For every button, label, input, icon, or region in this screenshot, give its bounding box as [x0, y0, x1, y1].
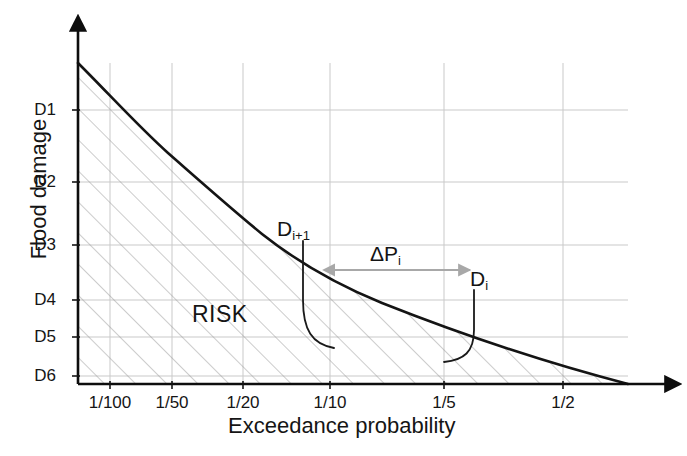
y-tick-label-d1: D6 — [22, 367, 56, 384]
x-tick-label-1-10: 1/10 — [295, 394, 365, 411]
x-tick-label-1-2: 1/2 — [533, 394, 593, 411]
x-tick-label-1-20: 1/20 — [208, 394, 278, 411]
y-axis-title: Flood damage — [28, 109, 50, 269]
risk-area-hatch — [70, 55, 640, 395]
d-i-plus-1-label: Di+1 — [277, 218, 310, 239]
flood-risk-chart: D1 D2 D3 D4 D5 D6 1/100 1/50 1/20 1/10 1… — [0, 0, 687, 456]
risk-area-label: RISK — [192, 303, 248, 326]
d-i-plus-1-base: D — [277, 217, 292, 240]
d-i-plus-1-subscript: i+1 — [292, 228, 310, 243]
chart-canvas — [0, 0, 687, 456]
y-tick-label-d3: D4 — [22, 291, 56, 308]
d-i-base: D — [470, 267, 485, 290]
delta-p-label: ΔPi — [370, 243, 401, 264]
x-tick-label-1-50: 1/50 — [137, 394, 207, 411]
d-i-label: Di — [470, 268, 488, 289]
x-tick-label-1-5: 1/5 — [414, 394, 474, 411]
delta-p-base: ΔP — [370, 242, 398, 265]
y-tick-label-d2: D5 — [22, 328, 56, 345]
x-axis-title: Exceedance probability — [228, 415, 455, 437]
delta-p-subscript: i — [398, 253, 401, 268]
d-i-subscript: i — [485, 278, 488, 293]
